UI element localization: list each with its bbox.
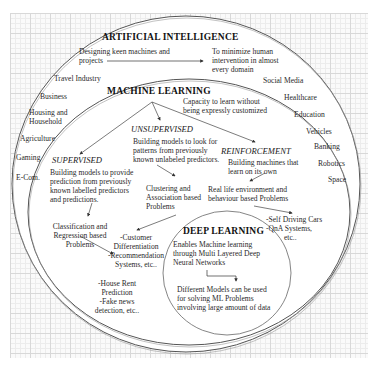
reinforcement-example-line2: -QnA Systems, [266,224,312,233]
unsupervised-line1: Building models to look for [133,137,217,146]
ai-title: ARTIFICIAL INTELLIGENCE [102,33,239,42]
ai-domain-banking: Banking [314,142,340,151]
ml-desc-line2: being expressly customized [183,106,267,115]
unsupervised-title: UNSUPERVISED [131,125,193,134]
ai-domain-business: Business [40,92,67,101]
ai-domain-travel: Travel Industry [54,74,101,83]
reinforcement-example-line1: -Self Driving Cars [266,215,322,224]
supervised-line4: and predictions. [50,195,99,204]
ai-domain-education: Education [294,110,325,119]
ai-domain-agriculture: Agriculture [20,134,55,143]
reinforcement-problems-line1: Real life environment and [208,185,287,194]
supervised-example-line2: Prediction [92,288,142,297]
ml-desc-line1: Capacity to learn without [183,97,260,106]
ai-domain-healthcare: Healthcare [284,93,317,102]
supervised-line1: Building models to provide [50,168,133,177]
supervised-example-line1: -House Rent [92,279,142,288]
ai-domain-gaming: Gaming [16,153,40,162]
ai-domain-housing-2: Household [29,117,62,126]
unsupervised-problems-line2: Association based [146,193,201,202]
ai-domain-ecom: E-Com. [16,173,40,182]
ai-desc-line1: Designing keen machines and [79,47,170,56]
ai-desc-line2: projects [79,56,103,65]
ai-goal-line3: every domain [212,65,254,74]
unsupervised-example-line1: -Customer [108,233,164,242]
ai-goal-line1: To minimize human [212,47,273,56]
unsupervised-problems-line1: Clustering and [146,184,191,193]
ml-title: MACHINE LEARNING [107,87,211,96]
supervised-example-line4: detection, etc.. [92,306,142,315]
ai-domain-social-media: Social Media [263,76,303,85]
dl-line2: through Multi Layered Deep [173,249,260,258]
supervised-problems-line1: Classification and [50,222,110,231]
reinforcement-title: REINFORCEMENT [221,147,291,156]
unsupervised-example-line2: Differentiation [108,242,164,251]
supervised-line2: prediction from previously [50,177,131,186]
supervised-title: SUPERVISED [52,156,102,165]
reinforcement-example-line3: etc.. [284,233,297,242]
dl-line1: Enables Machine learning [173,240,252,249]
ai-domain-vehicles: Vehicles [306,127,332,136]
dl-result-line2: for solving ML Problems [177,294,254,303]
unsupervised-line2: patterns from previously [133,146,208,155]
unsupervised-problems-line3: Problems [146,202,175,211]
dl-result-line3: involving large amount of data [177,303,271,312]
reinforcement-line1: Building machines that [228,158,298,167]
reinforcement-problems-line2: behaviour based Problems [208,194,288,203]
unsupervised-line3: known unlabeled predictors. [133,155,219,164]
supervised-example-line3: -Fake news [92,297,142,306]
dl-title: DEEP LEARNING [183,227,264,236]
reinforcement-line2: learn on its own [228,167,277,176]
supervised-problems-line3: Problems [50,240,110,249]
dl-line3: Neural Networks [173,258,225,267]
supervised-line3: known labelled predictors [50,186,129,195]
ai-goal-line2: intervention in almost [212,56,279,65]
unsupervised-example-line3: -Recommendation [108,251,164,260]
ai-domain-robotics: Robotics [318,159,345,168]
dl-result-line1: Different Models can be used [177,285,267,294]
supervised-problems-line2: Regression based [50,231,110,240]
unsupervised-example-line4: Systems, etc.. [108,260,164,269]
ai-domain-housing-1: Housing and [29,108,68,117]
ai-domain-space: Space [328,175,346,184]
